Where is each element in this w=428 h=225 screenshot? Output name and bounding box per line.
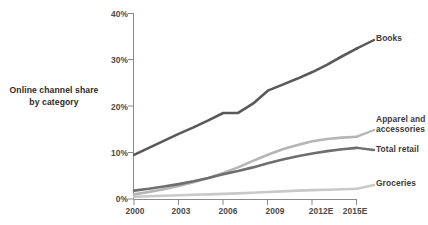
x-axis-spine bbox=[134, 200, 358, 206]
legend-leader-lines bbox=[357, 40, 374, 189]
series-total-retail bbox=[134, 148, 357, 191]
series-label-apparel-line-2: accessories bbox=[376, 124, 425, 134]
series-label-books: Books bbox=[376, 34, 402, 44]
y-axis-spine bbox=[128, 13, 134, 199]
series-label-apparel: Apparel and accessories bbox=[376, 115, 426, 134]
chart-figure: Online channel share by category 40% 30%… bbox=[0, 0, 428, 225]
series-label-total-retail: Total retail bbox=[376, 145, 419, 155]
series-label-groceries: Groceries bbox=[376, 179, 416, 189]
plot-area bbox=[0, 0, 428, 225]
series-label-apparel-line-1: Apparel and bbox=[376, 114, 426, 124]
series-groceries bbox=[134, 189, 357, 197]
